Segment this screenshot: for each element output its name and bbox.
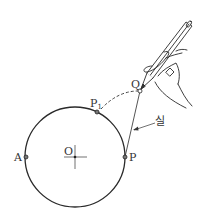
label-p: P [129,151,137,164]
involute-curve [101,91,138,109]
string-leader-arrowhead [133,127,139,131]
center-dot [74,156,77,159]
hand-with-pencil-icon [141,20,193,108]
label-a: A [13,151,23,164]
label-q: Q [131,78,140,91]
involute-diagram: A P O Q P1 실 [0,0,205,223]
point-a-marker [24,155,28,159]
string-line [125,91,140,157]
label-p1-sub: 1 [97,103,101,111]
string-label: 실 [155,115,165,128]
label-p1: P1 [90,97,102,111]
point-p-marker [123,155,127,159]
label-o: O [64,145,73,158]
